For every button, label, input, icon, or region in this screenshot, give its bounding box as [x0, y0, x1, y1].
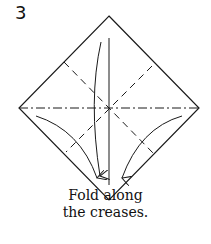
- arrow-right-icon: [122, 116, 182, 178]
- caption-line-1: Fold along: [0, 187, 211, 204]
- instruction-caption: Fold along the creases.: [0, 187, 211, 221]
- arrow-left-icon: [36, 116, 97, 178]
- arrow-top-icon: [94, 42, 101, 176]
- caption-line-2: the creases.: [0, 204, 211, 221]
